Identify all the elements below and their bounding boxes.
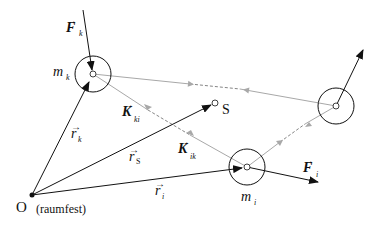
svg-text:→: →	[124, 99, 134, 110]
svg-text:→: →	[304, 155, 314, 166]
vector-r-i	[32, 168, 242, 195]
svg-text:i: i	[316, 170, 318, 179]
mass-k	[75, 56, 111, 92]
svg-text:ik: ik	[190, 152, 196, 161]
center-of-mass-point	[212, 100, 218, 106]
svg-text:→: →	[155, 178, 165, 189]
svg-text:S: S	[136, 157, 140, 166]
mass-i	[229, 149, 265, 185]
svg-text:ki: ki	[134, 115, 140, 124]
svg-text:k: k	[66, 73, 70, 82]
label-origin-note: (raumfest)	[36, 202, 86, 216]
svg-text:i: i	[162, 192, 164, 201]
svg-text:→: →	[129, 144, 139, 155]
svg-text:i: i	[254, 198, 256, 207]
mass-third	[318, 88, 354, 124]
svg-text:→: →	[180, 136, 190, 147]
label-origin: O	[16, 199, 27, 215]
label-mass-k: m	[53, 64, 63, 79]
label-mass-i: m	[241, 189, 251, 204]
force-f-k	[83, 10, 92, 70]
label-center-of-mass: S	[222, 102, 230, 117]
origin-point	[30, 193, 35, 198]
multibody-diagram: F → k m k K → ki S r → k r → S K → ik r …	[0, 0, 381, 229]
position-vectors	[32, 82, 242, 195]
svg-text:→: →	[71, 121, 81, 132]
svg-text:k: k	[78, 135, 82, 144]
svg-text:k: k	[79, 29, 83, 38]
svg-text:→: →	[67, 15, 77, 26]
force-third	[336, 50, 363, 106]
